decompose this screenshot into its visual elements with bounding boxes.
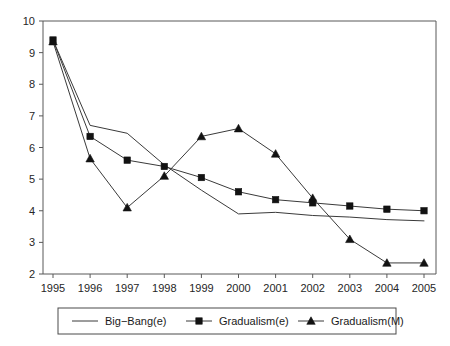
data-point-marker-square [161, 163, 167, 169]
data-point-marker-square [347, 203, 353, 209]
y-tick-label: 10 [23, 15, 35, 27]
x-tick-label: 2002 [300, 282, 324, 294]
data-point-marker-square [421, 208, 427, 214]
chart-axes [39, 21, 436, 278]
chart-series-group [49, 37, 428, 267]
x-tick-label: 1995 [41, 282, 65, 294]
y-tick-label: 2 [29, 268, 35, 280]
y-tick-label: 7 [29, 110, 35, 122]
data-point-marker-square [384, 206, 390, 212]
x-tick-label: 2005 [412, 282, 436, 294]
chart-legend: Big−Bang(e)Gradualism(e)Gradualism(M) [58, 308, 404, 334]
data-point-marker-square [196, 318, 202, 324]
series-line [53, 42, 424, 263]
legend-label: Gradualism(M) [331, 315, 404, 327]
line-chart: 2345678910 19951996199719981999200020012… [0, 0, 450, 346]
y-tick-label: 3 [29, 236, 35, 248]
plot-frame [43, 21, 436, 274]
legend-label: Big−Bang(e) [105, 315, 166, 327]
x-tick-label: 1998 [152, 282, 176, 294]
x-axis-tick-labels: 1995199619971998199920002001200220032004… [41, 282, 436, 294]
x-tick-label: 2001 [263, 282, 287, 294]
data-point-marker-square [124, 157, 130, 163]
chart-canvas: 2345678910 19951996199719981999200020012… [0, 0, 450, 346]
legend-label: Gradualism(e) [219, 315, 289, 327]
data-point-marker-triangle [234, 124, 242, 132]
x-tick-label: 1997 [115, 282, 139, 294]
data-point-marker-triangle [86, 154, 94, 162]
data-point-marker-square [198, 174, 204, 180]
x-tick-label: 1996 [78, 282, 102, 294]
x-tick-label: 2000 [226, 282, 250, 294]
data-point-marker-square [272, 196, 278, 202]
x-tick-label: 2004 [375, 282, 399, 294]
y-tick-label: 8 [29, 78, 35, 90]
x-axis-ticks [53, 274, 424, 278]
series-3 [49, 37, 428, 266]
data-point-marker-triangle [271, 150, 279, 158]
y-tick-label: 9 [29, 47, 35, 59]
y-axis-ticks [39, 21, 43, 274]
data-point-marker-square [87, 133, 93, 139]
x-tick-label: 2003 [338, 282, 362, 294]
y-axis-tick-labels: 2345678910 [23, 15, 35, 280]
x-tick-label: 1999 [189, 282, 213, 294]
y-tick-label: 6 [29, 142, 35, 154]
data-point-marker-square [235, 189, 241, 195]
y-tick-label: 5 [29, 173, 35, 185]
y-tick-label: 4 [29, 205, 35, 217]
